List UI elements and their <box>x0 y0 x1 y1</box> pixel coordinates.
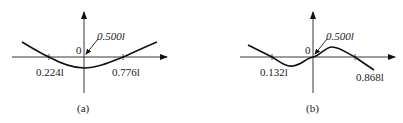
tick-label-a-left: 0.224l <box>36 66 64 78</box>
figure-b: 0 0.500l 0.132l 0.868l (b) <box>240 12 395 115</box>
origin-label-a: 0 <box>76 44 82 56</box>
caption-a: (a) <box>77 102 90 115</box>
tick-label-b-right: 0.868l <box>356 71 384 83</box>
annotation-label-b: 0.500l <box>326 30 354 42</box>
caption-b: (b) <box>306 102 319 115</box>
curve-a <box>22 42 157 68</box>
origin-label-b: 0 <box>305 44 311 56</box>
tick-label-a-right: 0.776l <box>112 66 140 78</box>
annotation-label-a: 0.500l <box>97 30 125 42</box>
tick-label-b-left: 0.132l <box>260 66 288 78</box>
diagram-canvas: 0 0.500l 0.224l 0.776l (a) 0 0.500l 0.13… <box>0 0 403 123</box>
figure-a: 0 0.500l 0.224l 0.776l (a) <box>12 12 167 115</box>
